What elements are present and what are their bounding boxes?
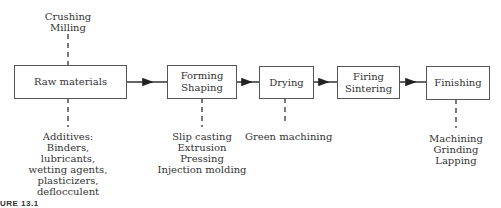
step-drying: Drying: [259, 66, 314, 99]
annotation-forming-methods: Slip casting Extrusion Pressing Injectio…: [157, 131, 247, 175]
annotation-crushing-milling: Crushing Milling: [38, 11, 98, 33]
annotation-line: Additives:: [18, 131, 118, 142]
step-label: Drying: [269, 77, 304, 89]
step-label: Finishing: [434, 77, 481, 89]
step-raw-materials: Raw materials: [14, 65, 127, 99]
step-label: Forming: [181, 70, 224, 82]
annotation-line: Pressing: [157, 153, 247, 164]
annotation-additives: Additives: Binders, lubricants, wetting …: [18, 131, 118, 197]
annotation-line: Injection molding: [157, 164, 247, 175]
annotation-line: Slip casting: [157, 131, 247, 142]
annotation-line: Binders,: [18, 142, 118, 153]
annotation-line: lubricants,: [18, 153, 118, 164]
annotation-finishing-methods: Machining Grinding Lapping: [421, 133, 491, 166]
step-forming-shaping: Forming Shaping: [167, 65, 237, 99]
annotation-line: wetting agents,: [18, 164, 118, 175]
annotation-line: deflocculent: [18, 186, 118, 197]
annotation-line: Extrusion: [157, 142, 247, 153]
step-firing-sintering: Firing Sintering: [337, 66, 400, 99]
annotation-line: plasticizers,: [18, 175, 118, 186]
step-label: Firing: [345, 71, 392, 83]
step-label: Shaping: [181, 82, 224, 94]
annotation-line: Green machining: [245, 131, 325, 142]
step-label: Sintering: [345, 83, 392, 95]
step-label: Raw materials: [34, 76, 107, 88]
annotation-green-machining: Green machining: [245, 131, 325, 142]
annotation-line: Machining: [421, 133, 491, 144]
figure-caption: URE 13.1: [0, 199, 39, 208]
annotation-line: Crushing: [38, 11, 98, 22]
step-finishing: Finishing: [426, 66, 490, 100]
annotation-line: Lapping: [421, 155, 491, 166]
annotation-line: Milling: [38, 22, 98, 33]
annotation-line: Grinding: [421, 144, 491, 155]
